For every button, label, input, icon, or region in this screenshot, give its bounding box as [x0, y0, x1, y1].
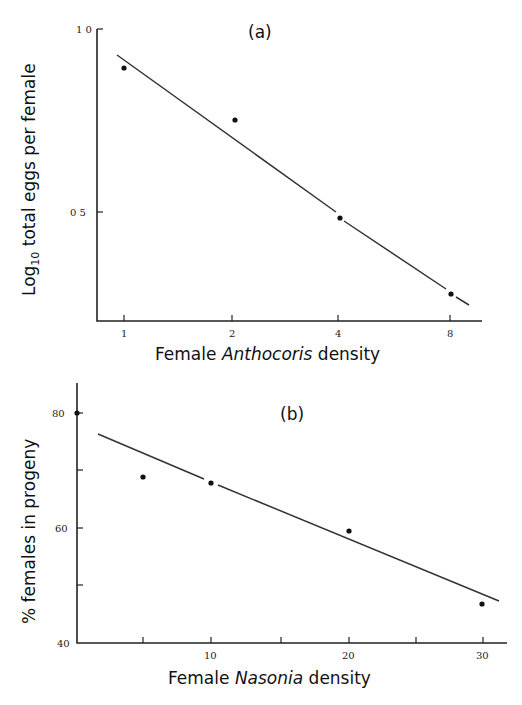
- chart-a-point: [337, 215, 342, 220]
- chart-a-ytick-label: 0 5: [70, 207, 86, 218]
- chart-a-fit-line: [117, 55, 469, 305]
- chart-a-ytick-label: 1 0: [76, 24, 92, 35]
- panel-label-b: (b): [280, 404, 304, 424]
- chart-a-axes: [97, 29, 482, 321]
- chart-a-point: [232, 117, 237, 122]
- chart-b-ytick-label: 40: [57, 638, 70, 649]
- chart-a: (a) 1 0 0 5 1 2 4 8 Female Anthocoris de…: [19, 22, 482, 364]
- chart-b-xtick-label: 30: [476, 650, 489, 661]
- chart-b-ytick-label: 60: [55, 523, 68, 534]
- chart-a-point: [448, 291, 453, 296]
- chart-a-xtick-label: 1: [121, 328, 127, 339]
- chart-b-ytick-label: 80: [52, 408, 65, 419]
- chart-a-point: [121, 65, 126, 70]
- chart-b-xtick-label: 20: [342, 650, 355, 661]
- chart-b-xlabel: Female Nasonia density: [168, 668, 371, 688]
- chart-b-point: [140, 474, 145, 479]
- panel-label-a: (a): [248, 22, 272, 42]
- chart-b-point: [208, 480, 213, 485]
- chart-a-xlabel: Female Anthocoris density: [155, 344, 380, 364]
- chart-b: (b) 80 60 40 10 20 30 Female Nasonia den…: [19, 383, 507, 688]
- chart-a-xtick-label: 8: [447, 328, 453, 339]
- chart-b-point: [346, 528, 351, 533]
- chart-b-point: [74, 410, 79, 415]
- chart-b-point: [479, 601, 484, 606]
- chart-b-fit-line: [98, 434, 499, 601]
- chart-a-xtick-label: 2: [229, 328, 235, 339]
- figure: (a) 1 0 0 5 1 2 4 8 Female Anthocoris de…: [0, 0, 522, 705]
- chart-a-xtick-label: 4: [335, 328, 341, 339]
- chart-b-xtick-label: 10: [204, 650, 217, 661]
- chart-b-ylabel: % females in progeny: [19, 439, 39, 624]
- chart-a-ylabel: Log10 total eggs per female: [19, 63, 42, 296]
